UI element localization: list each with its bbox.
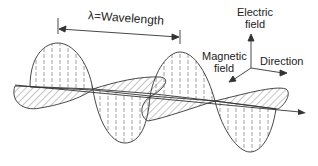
magnetic-field-label-line1: Magnetic [202, 50, 246, 62]
magnetic-field-label: Magnetic field [202, 50, 246, 74]
electric-field-label: Electric field [236, 6, 274, 30]
electric-field-label-line2: field [236, 18, 274, 30]
electric-field-label-line1: Electric [236, 6, 274, 18]
direction-label: Direction [260, 55, 303, 67]
em-wave-diagram: λ=Wavelength Electric field Magnetic fie… [0, 0, 318, 166]
magnetic-field-label-line2: field [202, 62, 246, 74]
